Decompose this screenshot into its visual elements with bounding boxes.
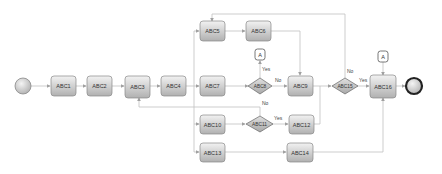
edge-abc6-abc9 [271, 31, 300, 75]
label-abc8-yes: Yes [262, 66, 271, 72]
gateway-abc11-label: ABC11 [252, 122, 267, 127]
connector-a-label: A [258, 52, 262, 58]
label-abc8-no: No [275, 77, 282, 83]
label-abc15-yes: Yes [359, 77, 368, 83]
gateway-abc11[interactable]: ABC11 [246, 116, 273, 132]
task-abc3-label: ABC3 [130, 84, 144, 90]
task-abc16[interactable]: ABC16 [370, 75, 396, 98]
connector-a-upper-left[interactable]: A [255, 49, 265, 60]
task-abc6[interactable]: ABC6 [246, 21, 271, 41]
gateway-abc8[interactable]: ABC8 [248, 78, 272, 94]
task-abc7[interactable]: ABC7 [200, 76, 225, 96]
task-abc13-label: ABC13 [204, 150, 221, 156]
task-abc12-label: ABC12 [293, 122, 310, 128]
start-event[interactable] [15, 78, 31, 94]
gateway-abc8-label: ABC8 [254, 84, 267, 89]
task-abc12[interactable]: ABC12 [289, 115, 314, 134]
edge-abc14-abc16 [313, 98, 383, 152]
task-abc9[interactable]: ABC9 [288, 76, 313, 96]
end-event[interactable] [406, 78, 422, 94]
task-abc5[interactable]: ABC5 [200, 21, 225, 41]
label-abc15-no: No [347, 68, 354, 74]
task-abc9-label: ABC9 [293, 83, 307, 89]
gateway-abc15[interactable]: ABC15 [332, 78, 358, 94]
task-abc10-label: ABC10 [204, 122, 221, 128]
connector-a-upper-right[interactable]: A [378, 51, 388, 62]
task-abc10[interactable]: ABC10 [200, 115, 225, 134]
edge-abc12-join [314, 86, 320, 124]
task-abc1-label: ABC1 [56, 83, 70, 89]
task-abc16-label: ABC16 [374, 84, 391, 90]
task-abc14-label: ABC14 [291, 150, 308, 156]
label-abc11-no: No [262, 100, 269, 106]
edge-abc11-no-loop [139, 98, 260, 116]
task-abc5-label: ABC5 [205, 28, 219, 34]
task-abc1[interactable]: ABC1 [51, 76, 76, 96]
task-abc6-label: ABC6 [251, 28, 265, 34]
task-abc2[interactable]: ABC2 [87, 76, 112, 96]
task-abc4-label: ABC4 [166, 83, 180, 89]
label-abc11-yes: Yes [274, 115, 283, 121]
edge-labels: Yes No No Yes No Yes [262, 66, 368, 121]
task-abc2-label: ABC2 [92, 83, 106, 89]
task-abc14[interactable]: ABC14 [287, 143, 313, 162]
gateway-abc15-label: ABC15 [337, 84, 353, 89]
task-abc7-label: ABC7 [205, 83, 219, 89]
edge-abc15-no-loop [212, 14, 345, 78]
task-abc4[interactable]: ABC4 [161, 76, 186, 96]
process-diagram: Yes No No Yes No Yes ABC1 ABC2 ABC3 ABC4… [0, 0, 442, 174]
task-abc13[interactable]: ABC13 [200, 143, 225, 162]
connector-a-label: A [381, 54, 385, 60]
task-abc3[interactable]: ABC3 [125, 76, 150, 98]
